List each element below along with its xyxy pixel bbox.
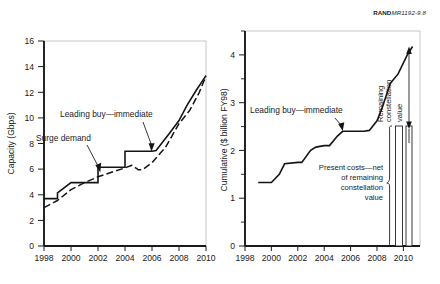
right-y-ticklabel-3: 3 [230, 98, 235, 108]
left-x-ticklabel-1998: 1998 [34, 253, 53, 263]
left-y-ticklabel-14: 14 [24, 62, 34, 72]
left-plot-frame [44, 41, 206, 246]
left-annot-leading-buy-label: Leading buy—immediate [60, 109, 153, 119]
right-x-ticklabel-2008: 2008 [367, 253, 386, 263]
left-y-ticklabel-6: 6 [29, 164, 34, 174]
right-x-ticklabel-1998: 1998 [235, 253, 254, 263]
right-x-ticklabel-2000: 2000 [262, 253, 281, 263]
present-costs-bar [396, 126, 403, 246]
right-x-ticklabels: 1998 2000 2002 2004 2006 2008 2010 [235, 253, 413, 263]
right-y-axis-title: Cumulative ($ billion FY98) [220, 88, 229, 191]
left-annot-surge-leader [87, 145, 98, 166]
present-costs-line-2: of remaining [341, 173, 383, 182]
left-annot-leading-buy-leader [143, 122, 152, 145]
left-annot-surge-label: Surge demand [36, 133, 91, 143]
remaining-constellation-annotation-text: Remaining constellation value [376, 80, 404, 122]
right-x-ticklabel-2004: 2004 [315, 253, 334, 263]
left-y-ticklabel-12: 12 [24, 88, 34, 98]
left-x-ticklabel-2000: 2000 [61, 253, 80, 263]
present-costs-annotation-text: Present costs—net of remaining constella… [319, 163, 384, 202]
left-chart-panel: 0 2 4 6 8 10 12 14 16 Capacity (Gbps) 19… [0, 0, 220, 284]
right-y-ticklabel-1: 1 [230, 193, 235, 203]
figure-container: RANDMR1192-9.8 0 2 4 6 8 10 12 [0, 0, 440, 284]
right-x-ticklabel-2002: 2002 [288, 253, 307, 263]
left-y-ticklabel-4: 4 [29, 190, 34, 200]
left-x-ticklabel-2006: 2006 [142, 253, 161, 263]
left-y-ticklabel-10: 10 [24, 113, 34, 123]
present-costs-brace [387, 126, 392, 246]
left-y-ticklabel-2: 2 [29, 216, 34, 226]
right-y-ticklabel-2: 2 [230, 146, 235, 156]
left-x-ticklabel-2008: 2008 [169, 253, 188, 263]
left-y-ticklabels: 0 2 4 6 8 10 12 14 16 [24, 36, 34, 251]
left-x-ticklabels: 1998 2000 2002 2004 2006 2008 2010 [34, 253, 215, 263]
present-costs-line-3: constellation [341, 183, 383, 192]
left-y-ticklabel-16: 16 [24, 36, 34, 46]
right-x-ticklabel-2006: 2006 [341, 253, 360, 263]
present-costs-line-4: value [365, 193, 383, 202]
remaining-constellation-bar [406, 126, 412, 246]
right-annot-leading-buy-arrowhead [338, 122, 344, 131]
left-y-ticklabel-0: 0 [29, 241, 34, 251]
right-annot-leading-buy-label: Leading buy—immediate [250, 105, 343, 115]
remaining-constellation-line-2: constellation [384, 80, 393, 122]
left-x-ticklabel-2010: 2010 [196, 253, 215, 263]
right-y-ticklabel-0: 0 [230, 241, 235, 251]
left-y-ticklabel-8: 8 [29, 139, 34, 149]
left-y-axis-title: Capacity (Gbps) [6, 112, 16, 174]
right-y-ticklabels: 0 1 2 3 4 [230, 50, 235, 251]
remaining-constellation-line-3: value [395, 104, 404, 122]
right-x-ticklabel-2010: 2010 [394, 253, 413, 263]
right-plot-frame [245, 31, 420, 246]
left-x-ticklabel-2004: 2004 [115, 253, 134, 263]
left-x-ticklabel-2002: 2002 [88, 253, 107, 263]
present-costs-line-1: Present costs—net [319, 163, 384, 172]
right-y-ticklabel-4: 4 [230, 50, 235, 60]
right-chart-panel: 0 1 2 3 4 Cumulative ($ billion FY98) 19… [220, 0, 440, 284]
